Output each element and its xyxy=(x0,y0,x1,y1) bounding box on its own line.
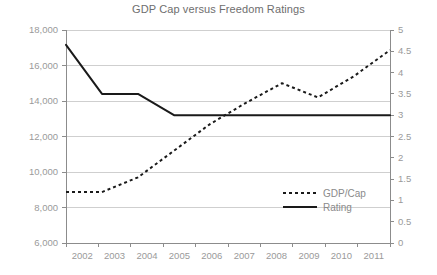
x-axis-tick-label: 2007 xyxy=(228,250,260,261)
chart-plot-area xyxy=(0,0,437,275)
x-axis-tick-label: 2008 xyxy=(260,250,292,261)
legend-label: Rating xyxy=(323,202,352,213)
right-axis-tick-label: 2 xyxy=(398,152,403,163)
right-axis-tick-label: 1 xyxy=(398,194,403,205)
series-line-rating xyxy=(66,45,390,115)
right-axis-tick-label: 0.5 xyxy=(398,216,411,227)
series-line-gdp-cap xyxy=(66,50,390,192)
right-axis-tick-label: 3 xyxy=(398,109,403,120)
left-axis-tick-label: 8,000 xyxy=(0,202,58,213)
chart-container: GDP Cap versus Freedom Ratings 6,0008,00… xyxy=(0,0,437,275)
x-axis-tick-label: 2003 xyxy=(98,250,130,261)
x-axis-tick-label: 2005 xyxy=(163,250,195,261)
right-axis-tick-label: 2.5 xyxy=(398,131,411,142)
right-axis-tick-label: 1.5 xyxy=(398,173,411,184)
x-axis-tick-label: 2004 xyxy=(131,250,163,261)
legend-swatch-dotted xyxy=(283,188,317,198)
left-axis-tick-label: 18,000 xyxy=(0,24,58,35)
legend-item: Rating xyxy=(283,200,366,214)
right-axis-tick-label: 4.5 xyxy=(398,45,411,56)
left-axis-tick-label: 16,000 xyxy=(0,60,58,71)
right-axis-tick-label: 5 xyxy=(398,24,403,35)
axis-tick-marks xyxy=(62,30,394,247)
x-axis-tick-label: 2009 xyxy=(293,250,325,261)
right-axis-tick-label: 0 xyxy=(398,237,403,248)
x-axis-tick-label: 2006 xyxy=(196,250,228,261)
legend-swatch-solid xyxy=(283,202,317,212)
right-axis-tick-label: 4 xyxy=(398,67,403,78)
right-axis-tick-label: 3.5 xyxy=(398,88,411,99)
chart-legend: GDP/CapRating xyxy=(283,186,366,214)
left-axis-tick-label: 14,000 xyxy=(0,95,58,106)
x-axis-tick-label: 2010 xyxy=(325,250,357,261)
left-axis-tick-label: 6,000 xyxy=(0,237,58,248)
legend-label: GDP/Cap xyxy=(323,188,366,199)
x-axis-tick-label: 2002 xyxy=(66,250,98,261)
left-axis-tick-label: 12,000 xyxy=(0,131,58,142)
legend-item: GDP/Cap xyxy=(283,186,366,200)
left-axis-tick-label: 10,000 xyxy=(0,166,58,177)
x-axis-tick-label: 2011 xyxy=(358,250,390,261)
data-series xyxy=(66,45,390,192)
